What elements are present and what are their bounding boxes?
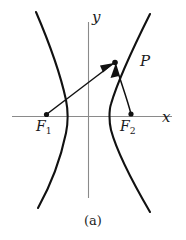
focus-f1-subscript: 1 [46, 125, 52, 136]
hyperbola-figure: y x P F1 F2 (a) [0, 0, 186, 240]
focus-f2-label: F2 [120, 119, 136, 133]
y-axis-label: y [92, 10, 100, 25]
focus-f2-subscript: 2 [130, 125, 136, 136]
vector-f1-to-p-arrowhead [100, 63, 114, 73]
point-p-marker [112, 60, 118, 66]
figure-canvas [0, 0, 186, 240]
focus-f2-letter: F [120, 118, 130, 134]
focus-point-f2 [128, 111, 133, 116]
x-axis-label: x [162, 110, 170, 125]
point-p-label: P [140, 54, 150, 69]
focus-f1-letter: F [36, 118, 46, 134]
figure-caption: (a) [0, 214, 186, 227]
focus-f1-label: F1 [36, 119, 52, 133]
focus-point-f1 [44, 112, 49, 117]
